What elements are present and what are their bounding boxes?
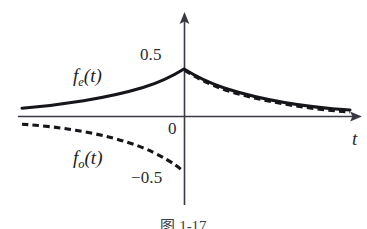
y-tick-label-negative: −0.5	[131, 169, 162, 186]
curve-label-f-even: fe(t)	[73, 66, 102, 85]
curve-f-even	[22, 69, 350, 110]
origin-label: 0	[168, 120, 177, 137]
x-axis-label: t	[352, 129, 357, 148]
curve-f-odd-right	[185, 70, 350, 112]
curve-label-f-odd-arg: (t)	[85, 147, 103, 168]
x-axis	[18, 112, 362, 122]
curve-label-f-odd: fo(t)	[73, 148, 102, 167]
y-axis	[180, 12, 190, 205]
curve-label-f-even-arg: (t)	[84, 65, 102, 86]
plot-canvas	[0, 0, 367, 229]
curve-label-f-odd-sub: o	[78, 157, 84, 171]
curve-label-f-even-sub: e	[78, 75, 84, 89]
figure-caption: 图 1-17	[0, 219, 367, 229]
y-tick-label-positive: 0.5	[140, 46, 162, 63]
figure-container: 0.5 0 −0.5 t fe(t) fo(t) 图 1-17	[0, 0, 367, 229]
